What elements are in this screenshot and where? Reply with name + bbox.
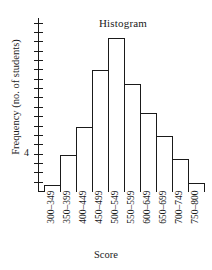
bar-series: [44, 18, 204, 192]
y-axis-tick: [34, 88, 43, 89]
x-tick-label-slot: 350–399: [60, 193, 76, 243]
y-axis-tick: [34, 51, 43, 52]
bar: [60, 155, 77, 192]
y-axis-label: Frequency (no. of students): [10, 22, 21, 172]
x-tick-label-slot: 500–549: [108, 193, 124, 243]
y-axis-tick: [34, 163, 43, 164]
x-tick-label-slot: 600–649: [140, 193, 156, 243]
x-axis-tick-labels: 300–349350–399400–449450–499500–549550–5…: [44, 193, 210, 243]
bar: [172, 159, 189, 192]
y-axis-tick: [34, 116, 43, 117]
y-axis-tick: [34, 182, 43, 183]
x-tick-label: 350–399: [62, 191, 75, 241]
x-tick-label: 450–499: [94, 191, 107, 241]
x-tick-label: 600–649: [142, 191, 155, 241]
y-axis-tick: [34, 126, 43, 127]
y-axis-label-wrapper: Frequency (no. of students): [10, 22, 24, 172]
y-tick-label-4: 4: [24, 147, 29, 158]
bar: [76, 127, 93, 192]
bar: [140, 113, 157, 192]
x-tick-label: 650–699: [158, 191, 171, 241]
x-tick-label: 400–449: [78, 191, 91, 241]
y-axis-tick: [34, 41, 43, 42]
plot-area: 4: [38, 18, 204, 192]
x-tick-label-slot: 450–499: [92, 193, 108, 243]
x-tick-label: 700–749: [174, 191, 187, 241]
histogram-figure: Histogram Frequency (no. of students) 4 …: [0, 0, 212, 270]
bar: [108, 38, 125, 192]
x-tick-label: 300–349: [46, 191, 59, 241]
x-tick-label-slot: 700–749: [172, 193, 188, 243]
x-tick-label-slot: 750–800: [188, 193, 204, 243]
x-tick-label-slot: 650–699: [156, 193, 172, 243]
y-axis-tick: [34, 32, 43, 33]
y-axis-tick: [34, 144, 43, 145]
x-tick-label-slot: 400–449: [76, 193, 92, 243]
y-axis-tick: [34, 172, 43, 173]
x-tick-label: 500–549: [110, 191, 123, 241]
y-axis-tick: [34, 154, 43, 155]
y-axis-tick: [34, 79, 43, 80]
x-tick-label: 550–599: [126, 191, 139, 241]
bar: [124, 84, 141, 192]
x-tick-label: 750–800: [190, 191, 203, 241]
bar: [92, 70, 109, 192]
y-axis-line: [38, 18, 39, 192]
y-axis-tick: [34, 60, 43, 61]
y-axis-tick: [34, 97, 43, 98]
y-axis-tick: [34, 135, 43, 136]
y-axis-tick: [34, 69, 43, 70]
bar: [156, 136, 173, 192]
x-tick-label-slot: 550–599: [124, 193, 140, 243]
y-axis-tick: [34, 107, 43, 108]
x-axis-label: Score: [56, 249, 156, 260]
x-tick-label-slot: 300–349: [44, 193, 60, 243]
y-axis-tick: [34, 23, 43, 24]
